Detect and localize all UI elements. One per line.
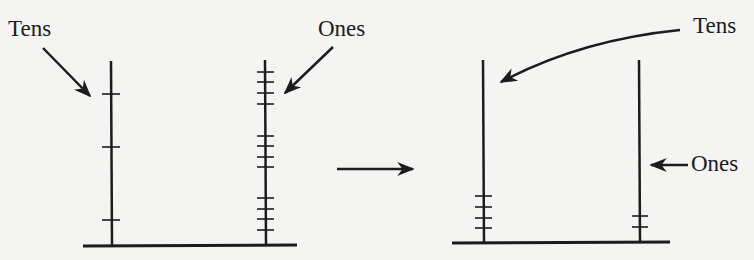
after-tens-rod: [475, 60, 492, 243]
before-ones-pointer-arrow: [285, 47, 333, 93]
diagram-drawing: [0, 0, 754, 260]
after-tens-label: Tens: [693, 14, 736, 37]
before-tens-label: Tens: [8, 17, 51, 40]
before-ones-rod: [257, 60, 274, 245]
before-abacus: [43, 47, 333, 246]
before-tens-rod: [102, 61, 120, 246]
before-ones-label: Ones: [318, 17, 365, 40]
before-baseline: [83, 245, 297, 246]
after-ones-rod: [632, 60, 648, 242]
after-abacus: [452, 30, 688, 243]
after-ones-label: Ones: [691, 152, 738, 175]
place-value-diagram: Tens Ones Tens Ones: [0, 0, 754, 260]
before-tens-pointer-arrow: [43, 48, 90, 96]
after-tens-pointer-arrow: [501, 30, 680, 82]
